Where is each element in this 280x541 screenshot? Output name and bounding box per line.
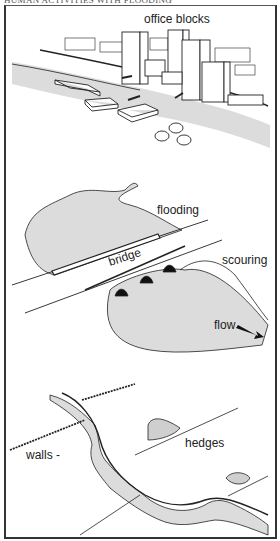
label-flooding: flooding: [157, 203, 199, 217]
label-flow: flow: [214, 318, 235, 332]
wall-north: [82, 384, 135, 400]
river-flow: [107, 269, 268, 352]
pond: [226, 473, 250, 484]
wall-west: [10, 420, 85, 450]
hedge-south: [80, 495, 140, 535]
label-office-blocks: office blocks: [144, 12, 210, 26]
flood-area: [25, 183, 182, 275]
river-meander: [50, 395, 268, 535]
label-scouring: scouring: [222, 253, 267, 267]
label-hedges: hedges: [185, 436, 224, 450]
urban-panel: [12, 30, 270, 148]
label-walls: walls -: [26, 448, 60, 462]
